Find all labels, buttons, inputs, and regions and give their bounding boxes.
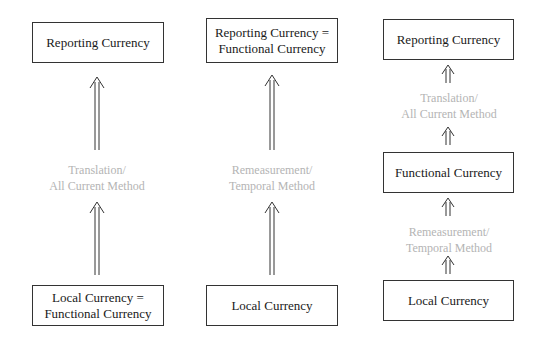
- col1-lower-arrow-icon: [90, 202, 104, 275]
- col3-arrow-4-icon: [442, 256, 454, 274]
- col2-lower-arrow-icon: [265, 202, 279, 275]
- col3-arrow-2-icon: [442, 127, 454, 145]
- double-arrows: [0, 0, 542, 342]
- col3-arrow-1-icon: [442, 65, 454, 83]
- col3-arrow-3-icon: [442, 198, 454, 216]
- col1-upper-arrow-icon: [90, 77, 104, 150]
- col2-upper-arrow-icon: [265, 75, 279, 150]
